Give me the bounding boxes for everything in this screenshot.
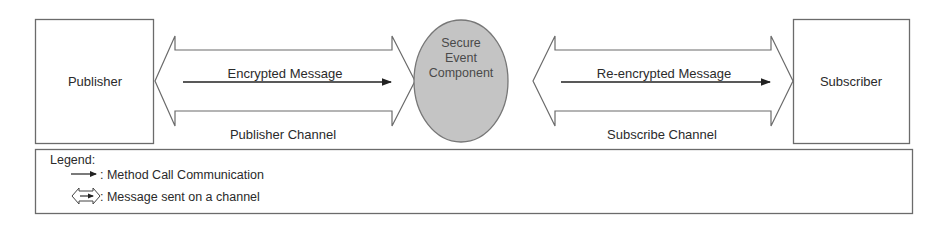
- publisher-label: Publisher: [68, 75, 122, 88]
- architecture-diagram: Publisher Subscriber Secure Event Compon…: [0, 0, 946, 227]
- subscribe-channel-double-arrow-icon: [533, 36, 793, 126]
- encrypted-message-label: Encrypted Message: [228, 67, 343, 80]
- publisher-channel-double-arrow-icon: [155, 36, 415, 126]
- secure-event-component-line-1: Secure: [429, 36, 494, 51]
- subscriber-label: Subscriber: [820, 75, 882, 88]
- secure-event-component-line-3: Component: [429, 66, 494, 81]
- reencrypted-message-label: Re-encrypted Message: [597, 67, 731, 80]
- legend-item-channel-message: : Message sent on a channel: [100, 190, 260, 204]
- legend-item-method-call: : Method Call Communication: [100, 168, 264, 182]
- secure-event-component-label: Secure Event Component: [429, 36, 494, 81]
- legend-title: Legend:: [50, 153, 95, 167]
- secure-event-component-line-2: Event: [429, 51, 494, 66]
- publisher-channel-label: Publisher Channel: [230, 128, 336, 141]
- subscribe-channel-label: Subscribe Channel: [607, 128, 717, 141]
